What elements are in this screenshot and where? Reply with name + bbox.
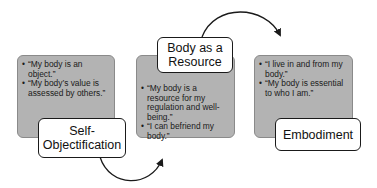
- bullet: “My body’s value is assessed by others.”: [21, 79, 111, 98]
- stage-label-self-objectification: Self- Objectification: [38, 118, 126, 158]
- bullet: “My body is essential to who I am.”: [258, 79, 349, 98]
- label-line: Resource: [168, 55, 222, 69]
- stage-label-body-as-resource: Body as a Resource: [157, 37, 233, 73]
- bullet: “My body is an object.”: [21, 60, 111, 79]
- label-line: Self-: [69, 124, 95, 138]
- bullet: “I can befriend my body.”: [140, 122, 231, 141]
- stage-bullets: “My body is an object.” “My body’s value…: [21, 60, 111, 98]
- stage-bullets: “I live in and from my body.” “My body i…: [258, 60, 349, 98]
- label-line: Embodiment: [283, 128, 353, 142]
- bullet: “My body is a resource for my regulation…: [140, 84, 231, 122]
- label-line: Objectification: [43, 138, 122, 152]
- bullet: “I live in and from my body.”: [258, 60, 349, 79]
- label-line: Body as a: [167, 41, 223, 55]
- stage-label-embodiment: Embodiment: [275, 118, 361, 151]
- stage-bullets: “My body is a resource for my regulation…: [140, 84, 231, 142]
- arrow-stage2-to-stage3: [202, 12, 280, 37]
- arrow-stage1-to-stage2: [100, 157, 162, 181]
